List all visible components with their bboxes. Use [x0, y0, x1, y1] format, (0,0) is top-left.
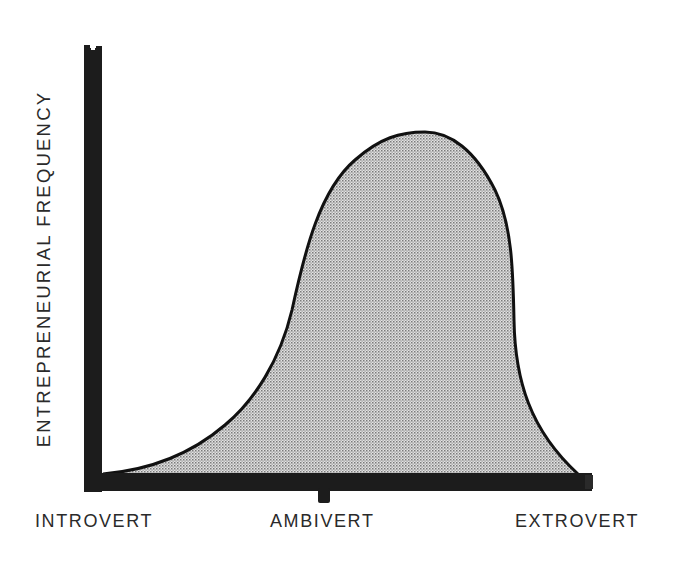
y-axis-notch [91, 44, 95, 50]
y-axis [84, 48, 102, 492]
x-axis-end [585, 475, 593, 489]
x-label-extrovert: EXTROVERT [515, 511, 639, 532]
x-label-ambivert: AMBIVERT [270, 511, 375, 532]
ambivert-tick [318, 488, 330, 503]
x-axis [84, 473, 592, 491]
chart-canvas [0, 0, 681, 563]
distribution-area [103, 132, 578, 474]
x-label-introvert: INTROVERT [35, 511, 153, 532]
y-axis-label: ENTREPRENEURIAL FREQUENCY [33, 91, 55, 448]
